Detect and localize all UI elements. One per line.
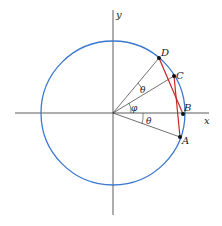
angle-label-theta-bottom: θ: [146, 116, 152, 126]
point-A-label: A: [181, 135, 189, 146]
point-B-label: B: [183, 102, 191, 113]
y-axis-label: y: [115, 9, 122, 20]
point-C-label: C: [176, 70, 184, 81]
x-axis-label: x: [204, 115, 210, 126]
angle-arc-theta-bottom: [142, 113, 143, 124]
angle-label-theta-top: θ: [140, 85, 146, 95]
circle-diagram: y x D C B A θ φ θ: [0, 0, 222, 226]
angle-label-phi: φ: [131, 103, 138, 113]
point-D-label: D: [160, 47, 169, 58]
